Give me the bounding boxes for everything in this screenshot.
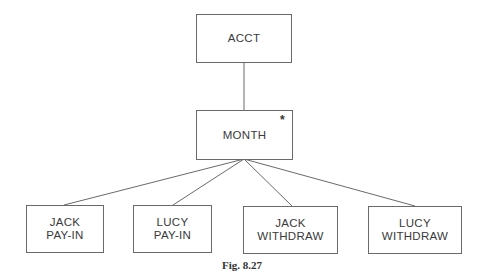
iteration-marker: *	[280, 113, 285, 127]
node-month-label: MONTH	[223, 129, 267, 142]
node-acct: ACCT	[196, 14, 292, 63]
node-label-line2: PAY-IN	[46, 229, 83, 242]
node-jack-payin: JACK PAY-IN	[26, 205, 104, 253]
node-jack-withdraw: JACK WITHDRAW	[243, 206, 338, 254]
node-lucy-payin: LUCY PAY-IN	[133, 205, 212, 253]
node-label-line2: WITHDRAW	[257, 230, 324, 243]
edge-month-lucy-withdraw	[244, 159, 415, 206]
node-label-line1: LUCY	[399, 217, 431, 230]
figure-caption: Fig. 8.27	[222, 259, 262, 271]
node-label-line1: JACK	[50, 216, 81, 229]
edge-month-jack-payin	[64, 159, 244, 205]
node-month: MONTH	[196, 110, 293, 160]
node-label-line1: JACK	[275, 217, 306, 230]
node-label-line2: WITHDRAW	[382, 230, 449, 243]
node-label-line1: LUCY	[157, 216, 189, 229]
edge-month-lucy-payin	[173, 159, 244, 205]
node-acct-label: ACCT	[228, 32, 261, 45]
node-lucy-withdraw: LUCY WITHDRAW	[368, 206, 462, 254]
node-label-line2: PAY-IN	[154, 229, 191, 242]
